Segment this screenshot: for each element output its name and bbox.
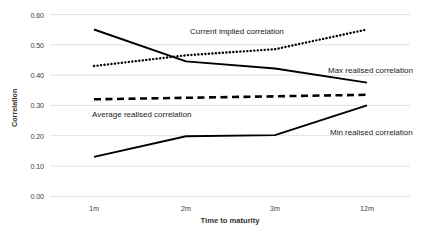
xtick-label-12m: 12m <box>347 204 387 213</box>
xtick-label-2m: 2m <box>166 204 206 213</box>
ytick-label-0: 0.60 <box>14 11 44 20</box>
ytick-label-4: 0.20 <box>14 132 44 141</box>
ytick-label-1: 0.50 <box>14 41 44 50</box>
annotation-current-implied-correlation: Current implied correlation <box>190 27 284 36</box>
series-line-average-realised <box>94 95 367 100</box>
ytick-label-5: 0.10 <box>14 162 44 171</box>
correlation-term-structure-chart: 0.60 0.50 0.40 0.30 0.20 0.10 0.00 Corre… <box>0 0 434 235</box>
xtick-label-3m: 3m <box>255 204 295 213</box>
ytick-label-2: 0.40 <box>14 71 44 80</box>
gridlines <box>50 15 410 197</box>
annotation-average-realised-correlation: Average realised correlation <box>92 110 191 119</box>
annotation-min-realised-correlation: Min realised correlation <box>330 128 413 137</box>
annotation-max-realised-correlation: Max realised correlation <box>328 66 413 75</box>
y-axis-title: Correlation <box>10 89 19 127</box>
ytick-label-6: 0.00 <box>14 192 44 201</box>
x-axis-title: Time to maturity <box>130 216 330 225</box>
xtick-label-1m: 1m <box>74 204 114 213</box>
